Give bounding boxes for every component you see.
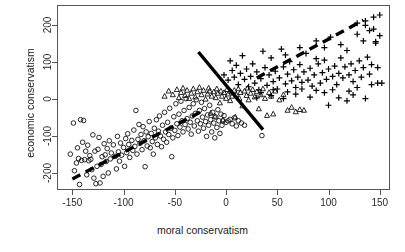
x-tick-label-150: 150 <box>371 197 388 208</box>
x-tick-label--150: -150 <box>62 197 82 208</box>
y-tick-label-200: 200 <box>42 8 53 42</box>
x-tick-150 <box>380 190 381 195</box>
x-tick--50 <box>175 190 176 195</box>
scatter-plot-figure: -150-100-50050100150 -200-1000100200 mor… <box>0 0 405 252</box>
x-tick--150 <box>72 190 73 195</box>
x-tick-0 <box>226 190 227 195</box>
x-tick-label-100: 100 <box>320 197 337 208</box>
x-tick-100 <box>329 190 330 195</box>
y-tick-label-0: 0 <box>42 82 53 116</box>
y-axis-title: economic conservatism <box>24 23 36 183</box>
x-tick-label-50: 50 <box>272 197 283 208</box>
x-tick-label--100: -100 <box>114 197 134 208</box>
y-tick-0 <box>52 99 57 100</box>
plot-frame <box>57 5 390 190</box>
x-tick-label--50: -50 <box>168 197 182 208</box>
y-tick-label-100: 100 <box>42 45 53 79</box>
x-tick--100 <box>124 190 125 195</box>
x-axis-title: moral conservatism <box>0 224 405 236</box>
y-tick--200 <box>52 173 57 174</box>
y-tick-label--100: -100 <box>42 119 53 153</box>
y-tick--100 <box>52 136 57 137</box>
x-tick-label-0: 0 <box>223 197 229 208</box>
y-tick-200 <box>52 25 57 26</box>
x-tick-50 <box>277 190 278 195</box>
y-tick-label--200: -200 <box>42 156 53 190</box>
y-tick-100 <box>52 62 57 63</box>
